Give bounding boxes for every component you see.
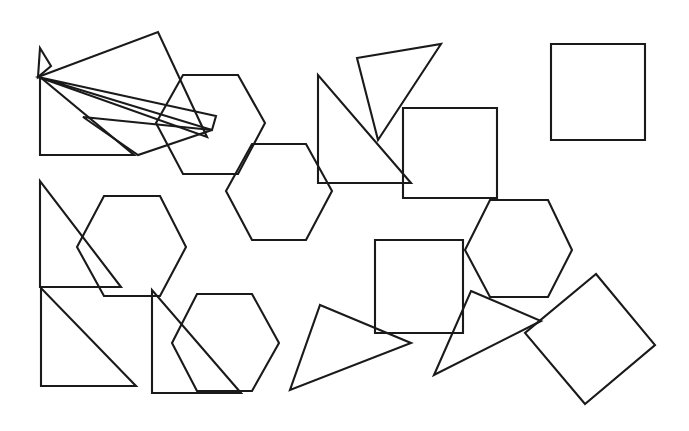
drawing-canvas	[0, 0, 689, 431]
triangle-upper-middle-right	[357, 44, 441, 140]
square-top-right	[551, 44, 645, 140]
right-triangle-lower-middle-left	[152, 290, 241, 393]
hexagon-upper-middle	[226, 144, 332, 240]
geometric-shapes-svg	[0, 0, 689, 431]
hexagon-middle-left	[77, 196, 186, 296]
hexagon-middle-right	[465, 200, 572, 297]
triangle-lower-middle	[290, 305, 411, 390]
square-upper-middle	[403, 108, 497, 198]
rotated-square-lower-right	[525, 274, 655, 404]
slanted-triangle-upper-left	[83, 117, 212, 155]
right-triangle-lower-left	[41, 288, 136, 386]
square-lower-middle	[375, 240, 463, 333]
